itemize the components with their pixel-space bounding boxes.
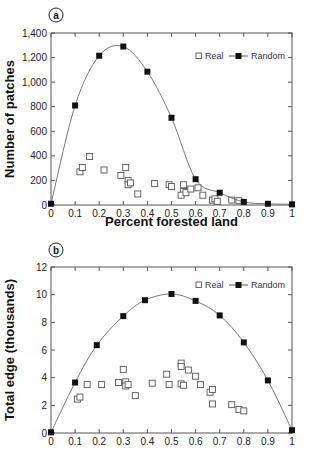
x-tick-label: 0.1 — [68, 436, 82, 447]
random-point — [48, 429, 54, 435]
legend-random-label: Random — [251, 51, 285, 61]
y-axis-title: Total edge (thousands) — [2, 279, 17, 421]
real-point — [185, 367, 191, 373]
real-point — [77, 394, 83, 400]
x-tick-label: 0.9 — [261, 208, 275, 219]
real-point — [118, 173, 124, 179]
y-tick-label: 0 — [41, 200, 47, 211]
random-point — [144, 69, 150, 75]
real-point — [178, 364, 184, 370]
legend-real-label: Real — [205, 51, 224, 61]
y-tick-label: 2 — [41, 400, 47, 411]
x-tick-label: 0.7 — [213, 436, 227, 447]
random-point — [169, 115, 175, 121]
real-point — [84, 382, 90, 388]
random-point — [193, 176, 199, 182]
random-point — [72, 380, 78, 386]
series-real — [75, 360, 247, 414]
random-point — [217, 190, 223, 196]
figure: 00.10.20.30.40.50.60.70.80.9102004006008… — [0, 0, 309, 450]
x-tick-label: 0 — [48, 208, 54, 219]
real-point — [166, 382, 172, 388]
real-point — [229, 402, 235, 408]
real-point — [123, 165, 129, 171]
y-tick-label: 1,400 — [22, 28, 47, 39]
y-tick-label: 200 — [30, 175, 47, 186]
legend: RealRandom — [196, 280, 285, 290]
x-tick-label: 0.9 — [261, 436, 275, 447]
real-point — [214, 198, 220, 204]
real-point — [209, 386, 215, 392]
real-point — [241, 408, 247, 414]
real-point — [87, 153, 93, 159]
real-point — [200, 192, 206, 198]
real-point — [125, 382, 131, 388]
random-point — [120, 313, 126, 319]
random-point — [289, 427, 295, 433]
y-tick-label: 8 — [41, 317, 47, 328]
random-point — [120, 44, 126, 50]
random-point — [241, 339, 247, 345]
x-axis-title: Percent forested land — [105, 214, 238, 229]
y-tick-label: 10 — [36, 289, 48, 300]
y-tick-label: 0 — [41, 428, 47, 439]
x-tick-label: 0.3 — [116, 436, 130, 447]
real-point — [120, 366, 126, 372]
chart-panel-b: 00.10.20.30.40.50.60.70.80.91024681012To… — [2, 243, 295, 447]
real-point — [101, 167, 107, 173]
x-tick-label: 0.8 — [237, 436, 251, 447]
random-point — [169, 291, 175, 297]
real-point — [181, 382, 187, 388]
x-tick-label: 0.8 — [237, 208, 251, 219]
legend-real-label: Real — [205, 280, 224, 290]
x-tick-label: 0.2 — [92, 436, 106, 447]
y-tick-label: 1,000 — [22, 77, 47, 88]
x-tick-label: 1 — [289, 208, 295, 219]
y-axis-title: Number of patches — [2, 60, 17, 178]
random-point — [265, 377, 271, 383]
panel-label: b — [53, 245, 59, 256]
random-line — [51, 294, 292, 432]
legend-random-marker — [236, 53, 242, 59]
real-point — [164, 371, 170, 377]
real-point — [195, 185, 201, 191]
legend: RealRandom — [196, 51, 285, 61]
x-tick-label: 0 — [48, 436, 54, 447]
legend-random-marker — [236, 282, 242, 288]
random-point — [265, 201, 271, 207]
series-real — [77, 153, 242, 204]
legend-real-marker — [196, 282, 202, 288]
random-line — [51, 45, 292, 204]
real-point — [169, 184, 175, 190]
y-tick-label: 400 — [30, 150, 47, 161]
x-tick-label: 0.6 — [189, 436, 203, 447]
random-point — [94, 342, 100, 348]
y-tick-label: 6 — [41, 345, 47, 356]
x-tick-label: 0.1 — [68, 208, 82, 219]
real-point — [135, 191, 141, 197]
real-point — [149, 380, 155, 386]
real-point — [181, 182, 187, 188]
y-tick-label: 4 — [41, 372, 47, 383]
y-tick-label: 600 — [30, 126, 47, 137]
random-point — [193, 298, 199, 304]
legend-real-marker — [196, 53, 202, 59]
real-point — [128, 180, 134, 186]
chart-panel-a: 00.10.20.30.40.50.60.70.80.9102004006008… — [2, 8, 295, 229]
random-point — [289, 201, 295, 207]
real-point — [79, 165, 85, 171]
real-point — [132, 393, 138, 399]
random-point — [217, 312, 223, 318]
y-tick-label: 12 — [36, 262, 48, 273]
real-point — [193, 373, 199, 379]
x-tick-label: 0.4 — [140, 436, 154, 447]
x-tick-label: 0.5 — [165, 436, 179, 447]
real-point — [188, 186, 194, 192]
real-point — [152, 181, 158, 187]
x-tick-label: 1 — [289, 436, 295, 447]
real-point — [209, 401, 215, 407]
random-point — [72, 102, 78, 108]
random-point — [96, 53, 102, 59]
series-random — [48, 291, 295, 435]
real-point — [115, 380, 121, 386]
